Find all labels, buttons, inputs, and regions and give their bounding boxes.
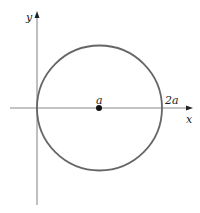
diagram: y x a 2a [0,0,200,213]
y-axis-label: y [25,11,33,24]
center-label: a [96,94,103,107]
x-axis-arrow-icon [186,106,193,111]
diagram-canvas: y x a 2a [0,0,200,213]
right-intercept-label: 2a [164,94,179,107]
y-axis-arrow-icon [35,11,40,18]
x-axis-label: x [186,113,193,126]
